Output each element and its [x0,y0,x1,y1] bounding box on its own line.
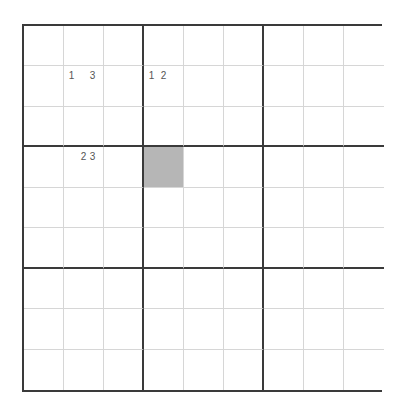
board-cell[interactable] [304,66,344,106]
board-cell[interactable] [184,309,224,349]
board-cell[interactable] [24,107,64,147]
board-cell[interactable]: 13 [64,66,104,106]
board-cell[interactable]: 23 [64,147,104,187]
board-cell[interactable] [144,228,184,268]
pencil-mark: 3 [86,151,99,162]
board-cell[interactable] [144,350,184,390]
board-cell[interactable] [184,26,224,66]
board-cell[interactable] [344,107,384,147]
board-cell[interactable] [64,350,104,390]
board-cell[interactable] [224,269,264,309]
board-cell[interactable] [184,228,224,268]
board-cell[interactable] [104,66,144,106]
board-cell[interactable] [344,269,384,309]
board-cell[interactable] [304,26,344,66]
board-cell[interactable] [184,188,224,228]
board-cell[interactable] [344,228,384,268]
board-cell[interactable] [304,309,344,349]
board-cell[interactable] [264,188,304,228]
clipped-header-text [0,0,400,4]
board-cell[interactable] [224,350,264,390]
board-cell[interactable] [224,228,264,268]
board-cell[interactable] [264,66,304,106]
board-cell[interactable] [104,228,144,268]
board-cell[interactable] [264,26,304,66]
board-cell[interactable] [344,66,384,106]
board-cell[interactable] [64,228,104,268]
pencil-mark: 2 [157,70,170,81]
board-cell[interactable] [64,309,104,349]
board-cell[interactable] [144,107,184,147]
pencil-mark: 1 [65,70,78,81]
board-cell[interactable] [224,309,264,349]
board-cell[interactable] [184,147,224,187]
board-cell[interactable] [64,26,104,66]
pencil-marks: 23 [64,151,103,163]
board-cell[interactable] [344,188,384,228]
board-cell[interactable] [64,188,104,228]
board-cell[interactable] [304,228,344,268]
board-cell[interactable] [24,188,64,228]
board-cell[interactable] [264,228,304,268]
board-cell[interactable] [24,26,64,66]
board-cell[interactable] [184,269,224,309]
board-cell[interactable] [304,107,344,147]
board-cell[interactable] [224,188,264,228]
board-cell[interactable] [144,309,184,349]
board-cell[interactable] [24,228,64,268]
board-cell[interactable] [224,107,264,147]
board-cell[interactable] [24,269,64,309]
board-cell[interactable] [64,107,104,147]
board-cell[interactable] [224,147,264,187]
board-cell[interactable] [24,66,64,106]
board-cell[interactable] [104,309,144,349]
board-cell[interactable] [104,26,144,66]
board-cell[interactable] [24,350,64,390]
board-cell[interactable] [304,350,344,390]
board-cell[interactable] [104,350,144,390]
board-cell[interactable] [104,188,144,228]
board-cell[interactable] [104,147,144,187]
board-cell[interactable] [264,350,304,390]
board-cell[interactable] [344,147,384,187]
board-cell[interactable] [304,269,344,309]
board-cell[interactable] [104,107,144,147]
board-cell[interactable] [264,269,304,309]
board-cell[interactable] [304,147,344,187]
board-cell[interactable] [64,269,104,309]
board-cell[interactable] [24,309,64,349]
board-cell[interactable] [144,26,184,66]
pencil-mark: 3 [86,70,99,81]
board-cell[interactable] [144,188,184,228]
pencil-marks: 12 [144,70,183,82]
selected-cell[interactable] [144,147,184,187]
board-cell[interactable] [184,350,224,390]
sudoku-board: 131223 [22,24,382,392]
pencil-marks: 13 [64,70,103,82]
board-cell[interactable] [304,188,344,228]
board-cell[interactable] [144,269,184,309]
board-cell[interactable] [224,66,264,106]
board-cell[interactable] [344,26,384,66]
board-cell[interactable] [344,309,384,349]
board-cell[interactable] [264,107,304,147]
board-cell[interactable] [184,66,224,106]
board-cell[interactable] [104,269,144,309]
board-cell[interactable] [264,147,304,187]
board-cell[interactable]: 12 [144,66,184,106]
board-cell[interactable] [184,107,224,147]
board-cell[interactable] [24,147,64,187]
board-cell[interactable] [224,26,264,66]
board-cell[interactable] [264,309,304,349]
board-cell[interactable] [344,350,384,390]
